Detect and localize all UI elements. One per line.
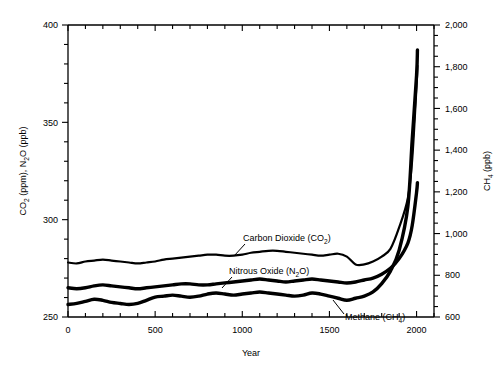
y-right-title-part1: CH [482, 178, 492, 191]
x-tick-label: 1000 [232, 325, 252, 335]
svg-text:Methane (CH4): Methane (CH4) [345, 312, 405, 324]
x-axis-title: Year [242, 348, 260, 358]
y-right-tick-label: 1,200 [445, 187, 468, 197]
x-tick-label: 0 [65, 325, 70, 335]
y-right-title-part2: (ppb) [482, 151, 492, 175]
y-right-tick-label: 1,600 [445, 104, 468, 114]
greenhouse-gas-line-chart: 0500100015002000 250300350400 6008001,00… [0, 0, 503, 382]
y-right-tick-label: 800 [445, 270, 460, 280]
annot-n2o-tail: O) [299, 266, 309, 276]
svg-text:Carbon Dioxide (CO2): Carbon Dioxide (CO2) [243, 233, 331, 245]
svg-text:CO2 (ppm), N2O (ppb): CO2 (ppm), N2O (ppb) [18, 127, 30, 216]
y-left-tick-label: 250 [43, 312, 58, 322]
y-left-tick-label: 350 [43, 118, 58, 128]
annot-ch4-text: Methane (CH [345, 312, 399, 322]
y-left-title-part2: (ppm), N [18, 161, 28, 199]
y-right-tick-label: 1,000 [445, 229, 468, 239]
y-axis-left-title: CO2 (ppm), N2O (ppb) [18, 127, 30, 216]
annot-co2-text: Carbon Dioxide (CO [243, 233, 324, 243]
x-tick-label: 500 [148, 325, 163, 335]
y-left-tick-label: 400 [43, 20, 58, 30]
y-right-tick-label: 1,400 [445, 145, 468, 155]
chart-figure: 0500100015002000 250300350400 6008001,00… [0, 0, 503, 382]
x-tick-label: 1500 [319, 325, 339, 335]
y-axis-right-title: CH4 (ppb) [482, 151, 494, 191]
y-right-tick-label: 1,800 [445, 62, 468, 72]
x-tick-label: 2000 [407, 325, 427, 335]
annot-n2o-text: Nitrous Oxide (N [229, 266, 296, 276]
y-right-tick-label: 600 [445, 312, 460, 322]
annot-co2-tail: ) [328, 233, 331, 243]
y-left-title-part3: O (ppb) [18, 127, 28, 158]
y-left-tick-label: 300 [43, 215, 58, 225]
y-right-tick-label: 2,000 [445, 20, 468, 30]
y-left-title-part1: CO [18, 202, 28, 216]
svg-text:CH4 (ppb): CH4 (ppb) [482, 151, 494, 191]
annot-ch4-tail: ) [402, 312, 405, 322]
